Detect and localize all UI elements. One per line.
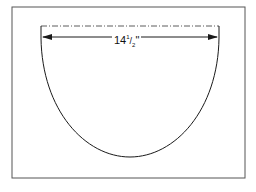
dimension-whole: 14 (114, 34, 126, 46)
diagram-svg (0, 0, 256, 192)
dimension-label: 141/2" (112, 31, 141, 51)
dimension-unit: " (135, 34, 139, 46)
arrow-left-icon (42, 34, 52, 40)
arrow-right-icon (208, 34, 218, 40)
